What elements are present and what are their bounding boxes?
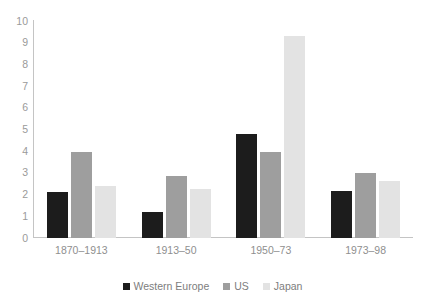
bar[interactable]	[331, 191, 352, 238]
bar-groups	[34, 20, 413, 238]
bar[interactable]	[284, 36, 305, 238]
bar[interactable]	[47, 192, 68, 238]
bar-group	[34, 20, 129, 238]
bar[interactable]	[71, 152, 92, 238]
legend-item[interactable]: Western Europe	[123, 280, 210, 292]
y-axis-tick-label: 9	[2, 37, 28, 48]
x-axis-tick-label: 1870–1913	[34, 243, 129, 261]
bar[interactable]	[95, 186, 116, 238]
bars	[224, 20, 319, 238]
y-axis-tick-label: 5	[2, 124, 28, 135]
bar-group	[318, 20, 413, 238]
y-axis-tick-label: 3	[2, 167, 28, 178]
legend-swatch-icon	[263, 283, 270, 290]
bar[interactable]	[166, 176, 187, 238]
y-axis-tick-label: 2	[2, 189, 28, 200]
bars	[34, 20, 129, 238]
bar[interactable]	[190, 189, 211, 238]
legend-item-label: Japan	[274, 280, 303, 292]
bar-chart: 109876543210 1870–19131913–501950–731973…	[0, 0, 425, 303]
y-axis-tick-label: 4	[2, 145, 28, 156]
y-axis-tick-label: 1	[2, 211, 28, 222]
y-axis-tick-label: 6	[2, 102, 28, 113]
legend-item-label: US	[234, 280, 249, 292]
bar[interactable]	[379, 181, 400, 239]
bar[interactable]	[236, 134, 257, 238]
bars	[129, 20, 224, 238]
bar-group	[129, 20, 224, 238]
bar-group	[224, 20, 319, 238]
x-axis-tick-label: 1913–50	[129, 243, 224, 261]
legend-item[interactable]: Japan	[263, 280, 303, 292]
y-axis-tick-label: 0	[2, 232, 28, 243]
chart-legend: Western EuropeUSJapan	[0, 280, 425, 292]
x-axis-tick-label: 1973–98	[318, 243, 413, 261]
bar[interactable]	[260, 152, 281, 238]
bar[interactable]	[142, 212, 163, 238]
x-axis-tick-label: 1950–73	[224, 243, 319, 261]
legend-swatch-icon	[223, 283, 230, 290]
y-axis-tick-label: 7	[2, 80, 28, 91]
y-axis-tick-labels: 109876543210	[0, 0, 28, 303]
legend-item-label: Western Europe	[134, 280, 210, 292]
y-axis-tick-label: 10	[2, 15, 28, 26]
x-axis-tick-labels: 1870–19131913–501950–731973–98	[34, 243, 413, 261]
bar[interactable]	[355, 173, 376, 238]
y-axis-tick-label: 8	[2, 59, 28, 70]
legend-item[interactable]: US	[223, 280, 249, 292]
legend-swatch-icon	[123, 283, 130, 290]
bars	[318, 20, 413, 238]
